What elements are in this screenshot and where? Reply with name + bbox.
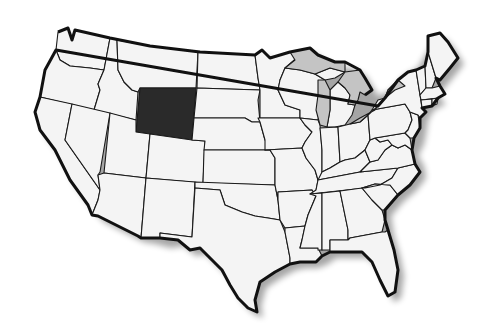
state-colorado[interactable] (146, 134, 205, 183)
state-kansas[interactable] (203, 150, 275, 185)
state-florida[interactable] (330, 230, 398, 296)
state-south-dakota[interactable] (194, 88, 260, 122)
lake-michigan (316, 80, 330, 127)
states (35, 28, 458, 312)
state-wyoming[interactable] (136, 88, 196, 140)
us-map (0, 0, 485, 326)
state-new-mexico[interactable] (141, 178, 195, 238)
